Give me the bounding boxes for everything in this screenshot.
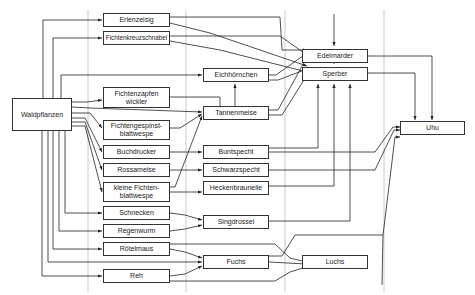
node-label: Rötelmaus: [120, 245, 153, 253]
node-label: Singdrossel: [218, 218, 255, 226]
node-label: Schnecken: [119, 209, 154, 217]
node-label: Edelmarder: [317, 52, 353, 60]
node-label: Regenwurm: [118, 227, 156, 235]
node-label: Waldpflanzen: [21, 111, 63, 119]
node-erlenzeisig: Erlenzeisig: [103, 13, 170, 27]
node-eichhoernchen: Eichhörnchen: [203, 68, 269, 82]
node-label: Fuchs: [226, 258, 245, 266]
node-label: kleine Fichten- blattwespe: [111, 184, 163, 200]
node-luchs: Luchs: [302, 255, 368, 269]
node-buchdrucker: Buchdrucker: [103, 145, 170, 159]
node-regenwurm: Regenwurm: [103, 224, 170, 238]
node-label: Rossameise: [117, 166, 156, 174]
node-schnecken: Schnecken: [103, 206, 170, 220]
node-label: Fichtenzapfen wickler: [112, 90, 162, 106]
node-rossameise: Rossameise: [103, 163, 170, 177]
node-singdrossel: Singdrossel: [203, 215, 269, 229]
node-waldpflanzen: Waldpflanzen: [12, 98, 72, 131]
node-heckenbraunelle: Heckenbraunelle: [203, 181, 269, 195]
node-label: Buchdrucker: [117, 148, 156, 156]
node-label: Heckenbraunelle: [210, 184, 263, 192]
node-label: Schwarzspecht: [212, 166, 259, 174]
node-edelmarder: Edelmarder: [302, 49, 368, 63]
node-tannenmeise: Tannenmeise: [203, 106, 269, 120]
node-buntspecht: Buntspecht: [203, 145, 269, 159]
node-schwarzspecht: Schwarzspecht: [203, 163, 269, 177]
node-label: Reh: [130, 272, 143, 280]
node-reh: Reh: [103, 269, 170, 283]
node-fichtenzapfenwickler: Fichtenzapfen wickler: [103, 87, 170, 108]
node-label: Tannenmeise: [215, 109, 257, 117]
node-label: Sperber: [323, 70, 348, 78]
node-label: Uhu: [426, 124, 439, 132]
node-label: Eichhörnchen: [215, 71, 258, 79]
node-label: Erlenzeisig: [119, 16, 153, 24]
node-label: Fichtengespinst- blattwespe: [107, 122, 167, 138]
node-fichtenkreuzschnabel: Fichtenkreuzschnabel: [103, 31, 170, 45]
node-roetelmaus: Rötelmaus: [103, 242, 170, 256]
node-fichtengespinstblattwespe: Fichtengespinst- blattwespe: [103, 120, 170, 140]
node-label: Luchs: [326, 258, 345, 266]
node-label: Fichtenkreuzschnabel: [106, 34, 167, 42]
node-sperber: Sperber: [302, 67, 368, 81]
node-kleine-fichtenblattwespe: kleine Fichten- blattwespe: [103, 182, 170, 202]
node-label: Buntspecht: [218, 148, 253, 156]
node-uhu: Uhu: [400, 121, 465, 135]
node-fuchs: Fuchs: [203, 255, 269, 269]
